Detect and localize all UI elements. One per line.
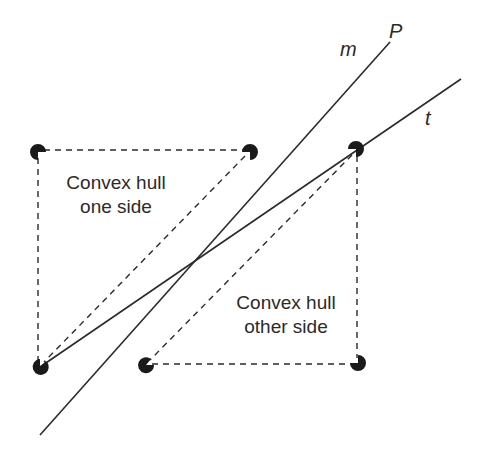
hull-one-side-label: Convex hull one side: [58, 171, 174, 219]
label-P: P: [389, 20, 402, 42]
hull-one-side-label-line2: one side: [58, 195, 174, 219]
hull-one-side-label-line1: Convex hull: [58, 171, 174, 195]
hull-other-side-label: Convex hull other side: [228, 291, 344, 339]
hull-other-side-label-line2: other side: [228, 315, 344, 339]
hull-other-side-label-line1: Convex hull: [228, 291, 344, 315]
line-m: [40, 42, 390, 435]
point-bottom-left: [33, 359, 49, 375]
point-bottom-right: [350, 355, 366, 371]
point-bottom-middle: [138, 357, 154, 373]
point-top-left: [30, 144, 46, 160]
label-m: m: [340, 38, 357, 60]
label-t: t: [425, 107, 431, 129]
convex-hull-diagram: [0, 0, 483, 457]
